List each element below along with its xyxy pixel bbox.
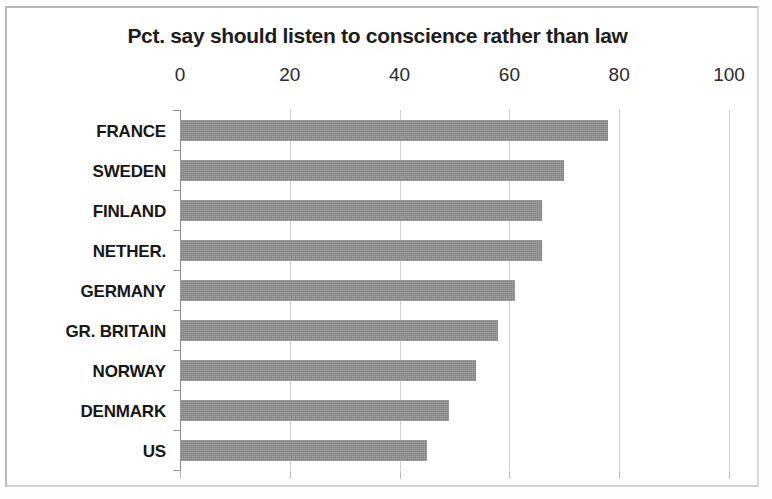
category-labels: FRANCESWEDENFINLANDNETHER.GERMANYGR. BRI…	[0, 110, 180, 470]
x-tick-label-80: 80	[609, 64, 630, 86]
category-label-nether: NETHER.	[93, 242, 166, 262]
x-tick-label-40: 40	[389, 64, 410, 86]
x-axis-tick-labels: 020406080100	[0, 64, 772, 92]
x-axis-tick-60	[509, 471, 510, 479]
chart-title: Pct. say should listen to conscience rat…	[20, 24, 735, 48]
y-axis-tick-5	[173, 350, 181, 351]
category-label-finland: FINLAND	[93, 202, 166, 222]
bar-denmark	[180, 400, 449, 421]
bar-us	[180, 440, 427, 461]
y-axis-tick-0	[173, 150, 181, 151]
chart-figure: Pct. say should listen to conscience rat…	[0, 0, 772, 499]
x-axis-tick-0	[180, 471, 181, 479]
x-axis-tick-40	[400, 471, 401, 479]
y-axis-tick-4	[173, 310, 181, 311]
bar-germany	[180, 280, 515, 301]
x-tick-label-100: 100	[713, 64, 745, 86]
category-label-norway: NORWAY	[93, 362, 166, 382]
bar-gr-britain	[180, 320, 498, 341]
bar-france	[180, 120, 608, 141]
x-axis-tick-20	[290, 471, 291, 479]
y-axis-tick-7	[173, 430, 181, 431]
category-label-gr-britain: GR. BRITAIN	[66, 322, 166, 342]
x-tick-label-0: 0	[175, 64, 186, 86]
bar-nether	[180, 240, 542, 261]
category-label-denmark: DENMARK	[81, 402, 166, 422]
category-label-sweden: SWEDEN	[93, 162, 166, 182]
gridline-100	[729, 110, 730, 470]
x-tick-label-20: 20	[279, 64, 300, 86]
x-axis-tick-100	[729, 471, 730, 479]
gridline-80	[619, 110, 620, 470]
bar-norway	[180, 360, 476, 381]
y-axis-tick-8	[173, 470, 181, 471]
category-label-germany: GERMANY	[81, 282, 167, 302]
x-tick-label-60: 60	[499, 64, 520, 86]
y-axis-tick-6	[173, 390, 181, 391]
y-axis-tick-3	[173, 270, 181, 271]
y-axis-tick-2	[173, 230, 181, 231]
bar-finland	[180, 200, 542, 221]
category-label-us: US	[143, 442, 166, 462]
bar-sweden	[180, 160, 564, 181]
y-axis-tick-1	[173, 190, 181, 191]
category-label-france: FRANCE	[96, 122, 166, 142]
x-axis-tick-80	[619, 471, 620, 479]
plot-area	[180, 110, 729, 470]
